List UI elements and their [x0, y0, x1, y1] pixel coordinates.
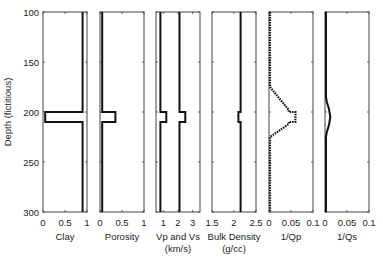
x-tick-label: 1: [84, 217, 89, 228]
axes-frame: [325, 12, 369, 212]
axes-frame: [212, 12, 256, 212]
y-tick-labels: 100150200250300: [23, 7, 39, 218]
y-tick-label: 100: [23, 7, 39, 18]
x-axis-label: 1/Qp: [281, 231, 302, 242]
x-axis-label: Porosity: [105, 231, 140, 242]
x-tick-label: 0.5: [115, 217, 128, 228]
x-axis-label: Clay: [55, 231, 74, 242]
series-line-bulk-density: [238, 12, 240, 212]
x-tick-label: 0.05: [338, 217, 357, 228]
x-tick-label: 1: [161, 217, 166, 228]
x-tick-label: 0: [97, 217, 102, 228]
x-tick-label: 0: [322, 217, 327, 228]
panels: 00.51Clay00.51Porosity123Vp and Vs(km/s)…: [40, 12, 375, 254]
panel-bulk-density: 1.522.5Bulk Density(g/cc): [205, 12, 262, 254]
x-axis-label: Vp and Vs: [156, 231, 200, 242]
x-tick-label: 2: [231, 217, 236, 228]
y-tick-label: 150: [23, 57, 39, 68]
panel-porosity: 00.51Porosity: [97, 12, 146, 242]
panel-1-qs: 00.050.11/Qs: [322, 12, 375, 242]
x-axis-label: 1/Qs: [337, 231, 357, 242]
x-tick-label: 1.5: [205, 217, 218, 228]
x-tick-label: 0.5: [58, 217, 71, 228]
depth-logs-figure: Depth (fictitious) 100150200250300 00.51…: [0, 0, 383, 257]
x-tick-label: 1: [141, 217, 146, 228]
x-tick-label: 0.1: [362, 217, 375, 228]
y-tick-label: 250: [23, 157, 39, 168]
x-axis-unit-label: (km/s): [165, 243, 191, 254]
x-tick-label: 2.5: [249, 217, 262, 228]
panel-clay: 00.51Clay: [40, 12, 89, 242]
series-line-vp: [180, 12, 186, 212]
x-axis-unit-label: (g/cc): [222, 243, 246, 254]
y-tick-label: 300: [23, 207, 39, 218]
x-tick-label: 3: [190, 217, 195, 228]
x-tick-label: 0: [40, 217, 45, 228]
x-tick-label: 0: [266, 217, 271, 228]
series-line-porosity: [102, 12, 115, 212]
x-tick-label: 0.05: [282, 217, 301, 228]
x-tick-label: 0.1: [306, 217, 319, 228]
series-line-clay: [45, 12, 82, 212]
y-axis-label: Depth (fictitious): [2, 78, 13, 147]
panel-1-qp: 00.050.11/Qp: [266, 12, 319, 242]
y-tick-label: 200: [23, 107, 39, 118]
series-line-vs: [160, 12, 166, 212]
panel-vp-and-vs: 123Vp and Vs(km/s): [156, 12, 200, 254]
x-tick-label: 2: [175, 217, 180, 228]
series-line-1-qp: [270, 12, 295, 212]
x-axis-label: Bulk Density: [208, 231, 261, 242]
